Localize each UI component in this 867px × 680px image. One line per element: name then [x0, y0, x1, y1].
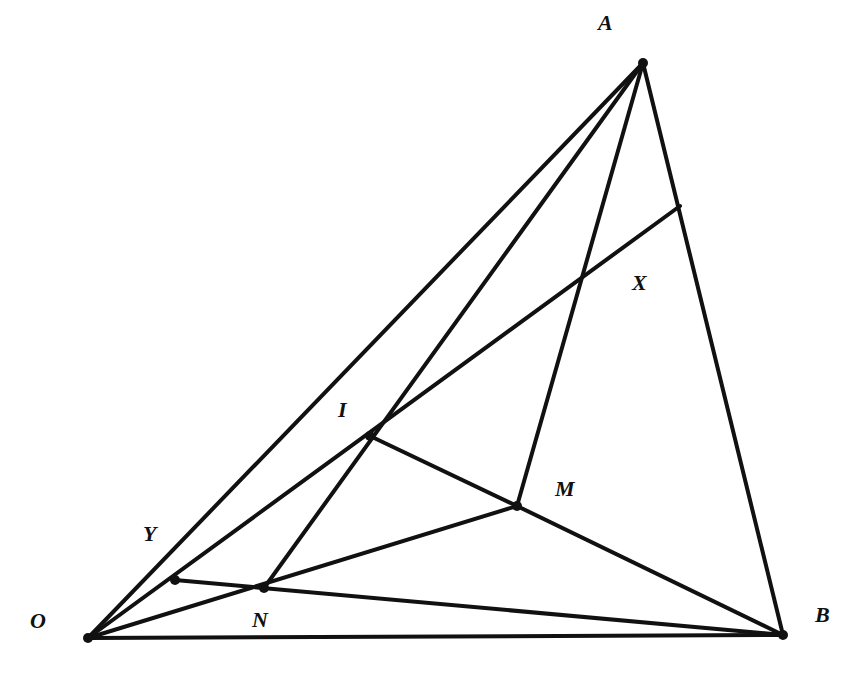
label-i: I: [337, 397, 348, 422]
label-a: A: [596, 10, 613, 35]
point-b: [778, 630, 788, 640]
label-n: N: [251, 607, 269, 632]
point-i: [365, 431, 375, 441]
label-m: M: [554, 476, 576, 501]
point-n: [259, 583, 269, 593]
point-o: [83, 633, 93, 643]
geometry-diagram: OABIMNYX: [0, 0, 867, 680]
point-y: [170, 575, 180, 585]
segment-a-b: [643, 63, 783, 635]
label-b: B: [814, 602, 830, 627]
point-a: [638, 58, 648, 68]
segment-o-b: [88, 635, 783, 638]
segment-a-n: [264, 63, 643, 588]
label-o: O: [30, 608, 46, 633]
point-m: [512, 501, 522, 511]
segment-o-p: [88, 206, 680, 638]
label-x: X: [631, 270, 648, 295]
segment-i-m: [370, 436, 517, 506]
label-y: Y: [143, 521, 159, 546]
